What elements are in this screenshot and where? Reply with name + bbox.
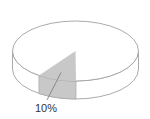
slice-label: 10% [35,102,57,114]
pie-chart: 10% [0,0,150,119]
pie-top [13,21,139,81]
